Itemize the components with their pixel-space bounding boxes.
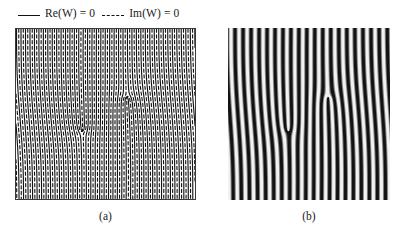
panel-a-nodal-lines <box>15 28 196 200</box>
contour-im-w-zero <box>111 29 112 199</box>
contour-re-w-zero <box>181 29 188 199</box>
contour-im-w-zero <box>115 29 116 199</box>
caption-panel-a: (a) <box>15 211 196 223</box>
contour-re-w-zero <box>177 29 184 199</box>
caption-panel-b: (b) <box>228 211 390 223</box>
contour-im-w-zero <box>102 29 103 199</box>
contour-re-w-zero <box>91 29 93 199</box>
contour-re-w-zero <box>117 29 119 199</box>
legend-dashed-line-icon <box>102 15 124 16</box>
contour-im-w-zero <box>16 160 17 199</box>
contour-re-w-zero <box>100 29 101 199</box>
contour-re-w-zero <box>108 29 109 199</box>
figure-legend: Re(W) = 0 Im(W) = 0 <box>18 4 208 24</box>
panel-b-fringe-pattern <box>228 28 390 200</box>
contour-re-w-zero <box>39 29 46 199</box>
contour-re-w-zero <box>95 29 96 199</box>
contour-re-w-zero <box>168 29 175 199</box>
contour-re-w-zero <box>86 29 88 199</box>
fringe-heatmap <box>228 28 390 200</box>
legend-entry-im: Im(W) = 0 <box>102 8 179 20</box>
contour-re-w-zero <box>30 29 37 199</box>
legend-label-re: Re(W) = 0 <box>45 8 95 20</box>
contour-im-w-zero <box>93 29 94 199</box>
contour-re-w-zero <box>34 29 41 199</box>
contour-im-w-zero <box>106 29 107 199</box>
contour-re-w-zero <box>163 29 170 199</box>
contour-re-w-zero <box>113 29 114 199</box>
nodal-line-plot <box>16 29 195 199</box>
contour-re-w-zero <box>186 29 193 199</box>
contour-re-w-zero <box>172 29 179 199</box>
contour-re-w-zero <box>21 29 28 199</box>
contour-re-w-zero <box>26 29 33 199</box>
legend-label-im: Im(W) = 0 <box>129 8 179 20</box>
legend-solid-line-icon <box>18 15 40 16</box>
contour-re-w-zero <box>104 29 105 199</box>
legend-entry-re: Re(W) = 0 <box>18 8 95 20</box>
contour-im-w-zero <box>127 96 133 199</box>
figure-root: Re(W) = 0 Im(W) = 0 (a) (b) <box>0 0 412 237</box>
contour-im-w-zero <box>97 29 98 199</box>
